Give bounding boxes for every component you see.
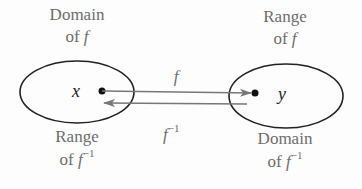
right-bottom-label-line1: Domain <box>258 129 313 148</box>
right-top-label-line2: of f <box>273 29 298 48</box>
right-bottom-label-line2: of f−1 <box>268 149 303 171</box>
forward-arrow-label: f <box>174 67 181 86</box>
forward-arrow <box>102 91 251 93</box>
inverse-arrow <box>104 103 247 104</box>
dot-y <box>252 90 259 97</box>
right-top-label-line1: Range <box>263 7 306 26</box>
right-set-ellipse <box>229 64 343 128</box>
diagram-canvas: Domain of f Range of f x y f f−1 Range o… <box>0 0 362 189</box>
element-y: y <box>276 84 286 104</box>
function-inverse-diagram: Domain of f Range of f x y f f−1 Range o… <box>0 0 362 189</box>
left-top-label-line2: of f <box>65 27 90 46</box>
element-x: x <box>71 81 80 101</box>
inverse-arrow-label: f−1 <box>163 122 179 144</box>
left-top-label-line1: Domain <box>50 5 105 24</box>
left-bottom-label-line1: Range <box>55 127 98 146</box>
left-bottom-label-line2: of f−1 <box>60 147 95 169</box>
